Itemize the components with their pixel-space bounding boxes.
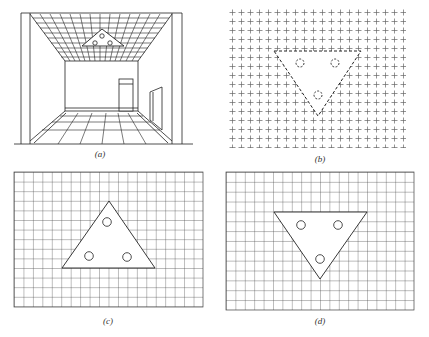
panel-label-a: (a) — [95, 149, 106, 159]
panel-c-grid — [14, 172, 203, 307]
panel-label-c: (c) — [103, 316, 113, 326]
figure-canvas — [0, 0, 429, 337]
panel-d-grid — [226, 172, 414, 310]
panel-a-room — [14, 13, 193, 144]
panel-b-plan — [228, 8, 406, 148]
panel-label-d: (d) — [315, 316, 326, 326]
panel-label-b: (b) — [315, 154, 326, 164]
